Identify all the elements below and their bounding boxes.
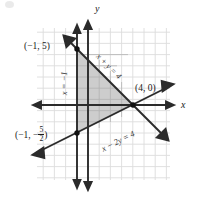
x-axis-arrow-right <box>166 101 174 108</box>
x-axis-label: x <box>181 100 185 110</box>
vertex-bottom-fraction: 52 <box>38 126 44 143</box>
vertex-dot-top <box>74 46 79 51</box>
y-axis-arrow-down <box>84 182 91 190</box>
coordinate-plane-svg <box>0 0 203 209</box>
vertex-bottom-suffix: ) <box>44 130 47 140</box>
equation-label-vertical: x = −1 <box>60 71 69 95</box>
fraction-denominator: 2 <box>38 134 44 143</box>
vertex-label-bottom: (−1, −52) <box>15 126 47 143</box>
x-axis-arrow-left <box>33 101 41 108</box>
y-axis-label: y <box>95 4 99 14</box>
vertex-label-right: (4, 0) <box>135 84 156 94</box>
vertex-bottom-prefix: (−1, − <box>15 130 38 140</box>
vertex-label-top: (−1, 5) <box>24 42 50 52</box>
y-axis-arrow-up <box>84 21 91 29</box>
figure-canvas: y x (−1, 5) (4, 0) (−1, −52) x = −1 x + … <box>0 0 203 209</box>
vertex-dot-bottom <box>74 130 79 135</box>
vertex-dot-right <box>130 102 135 107</box>
fraction-numerator: 5 <box>38 126 44 134</box>
